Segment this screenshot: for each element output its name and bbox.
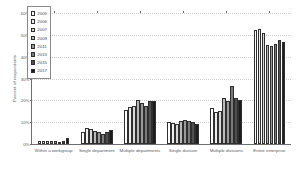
legend-swatch <box>31 28 36 33</box>
bar-group: Entire enterprise <box>248 13 291 144</box>
legend-swatch <box>31 44 36 49</box>
x-tick-mark <box>183 11 184 14</box>
bar <box>282 42 286 144</box>
y-tick-label: 0% <box>23 142 29 147</box>
legend-item: 2006 <box>31 18 48 26</box>
bar <box>152 101 156 144</box>
bar-groups: Within a workgroupSingle departmentMulti… <box>32 13 291 144</box>
legend-swatch <box>31 60 36 65</box>
bars <box>210 13 242 144</box>
y-tick-mark <box>30 144 32 145</box>
legend-swatch <box>31 36 36 41</box>
legend-item: 2017 <box>31 67 48 75</box>
legend-swatch <box>31 52 36 57</box>
legend-label: 2011 <box>37 44 46 49</box>
legend-label: 2015 <box>37 60 47 65</box>
legend-label: 2005 <box>37 11 47 16</box>
bars <box>124 13 156 144</box>
x-tick-mark <box>140 11 141 14</box>
x-tick-mark <box>97 11 98 14</box>
legend-item: 2013 <box>31 50 48 58</box>
legend-swatch <box>31 19 36 24</box>
bar-group: Multiple departments <box>118 13 161 144</box>
x-tick-mark <box>226 11 227 14</box>
legend-label: 2009 <box>37 36 47 41</box>
legend-label: 2013 <box>37 52 47 57</box>
legend-swatch <box>31 69 36 74</box>
bar <box>109 130 113 144</box>
plot-area: 0%10%20%30%40%50%60% Within a workgroupS… <box>31 13 291 145</box>
legend-item: 2007 <box>31 26 48 34</box>
y-tick-label: 10% <box>21 120 30 125</box>
bars <box>81 13 113 144</box>
bar <box>238 100 242 144</box>
y-axis-title: Percent of respondents <box>12 34 17 124</box>
legend-swatch <box>31 11 36 16</box>
legend-item: 2009 <box>31 34 48 42</box>
legend: 20052006200720092011201320152017 <box>27 6 51 79</box>
x-tick-label: Entire enterprise <box>242 148 296 153</box>
bar-group: Single department <box>75 13 118 144</box>
x-tick-mark <box>269 11 270 14</box>
bar <box>195 124 199 144</box>
bar-group: Single division <box>162 13 205 144</box>
legend-label: 2017 <box>37 68 47 73</box>
bars <box>253 13 285 144</box>
legend-item: 2005 <box>31 10 48 18</box>
bar-chart: Percent of respondents 0%10%20%30%40%50%… <box>0 0 301 177</box>
legend-item: 2011 <box>31 42 48 50</box>
legend-label: 2007 <box>37 27 47 32</box>
y-tick-label: 20% <box>21 98 30 103</box>
bar <box>66 138 70 144</box>
legend-label: 2006 <box>37 19 47 24</box>
bars <box>167 13 199 144</box>
x-tick-mark <box>54 11 55 14</box>
bar-group: Multiple divisions <box>205 13 248 144</box>
legend-item: 2015 <box>31 59 48 67</box>
